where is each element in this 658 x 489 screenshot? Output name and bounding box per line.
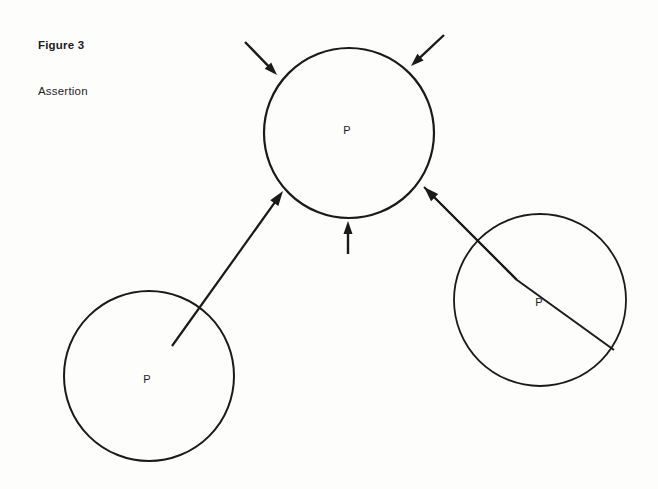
arrow-top-right-inbound	[411, 35, 444, 66]
arrow-lower-right-inbound-outer	[517, 280, 614, 350]
arrow-lower-right-inbound	[517, 280, 614, 350]
arrow-lower-right-inbound-tip-shaft	[430, 193, 517, 280]
arrow-bottom-left-to-top-shaft	[172, 198, 278, 346]
arrow-bottom-vertical-inbound-head	[344, 221, 353, 234]
arrow-bottom-left-to-top	[172, 191, 283, 346]
node-bottom-left-label: P	[143, 373, 150, 385]
node-bottom-left[interactable]: P	[64, 291, 234, 461]
arrow-top-left-inbound	[245, 42, 277, 75]
arrow-bottom-left-to-top-head	[270, 191, 283, 206]
arrow-bottom-vertical-inbound	[344, 221, 353, 254]
node-top[interactable]: P	[264, 48, 434, 218]
node-layer: PPP	[64, 48, 626, 461]
node-top-label: P	[343, 124, 350, 136]
arrow-lower-right-inbound-tip	[424, 187, 517, 280]
figure-page: PPP Figure 3 Assertion	[0, 0, 658, 489]
assertion-diagram: PPP	[0, 0, 658, 489]
node-right-label: P	[535, 296, 542, 308]
node-right[interactable]: P	[454, 214, 626, 386]
arrow-layer	[172, 35, 614, 350]
